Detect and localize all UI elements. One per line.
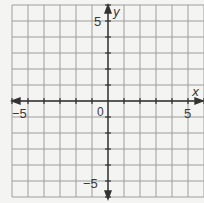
y-axis-label: y [112,5,121,19]
x-tick-label-5: 5 [184,106,191,121]
y-axis-down-arrow-icon [105,191,111,199]
x-tick-label-neg5: −5 [12,106,27,121]
y-tick-label-neg5: −5 [83,176,98,191]
y-axis-up-arrow-icon [105,5,111,13]
origin-label: 0 [97,105,104,119]
y-axis [105,5,111,199]
coordinate-plane: y x 0 −5 5 5 −5 [0,0,204,203]
x-axis-left-arrow-icon [12,98,20,104]
y-tick-label-5: 5 [94,14,101,29]
x-axis-label: x [191,85,200,99]
